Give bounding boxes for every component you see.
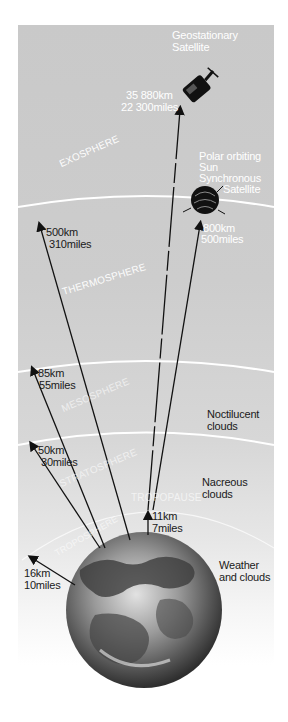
altitude-500km: 500km [46, 226, 78, 238]
geostationary-label-2: Satellite [172, 41, 209, 53]
nacreous-label-1: Nacreous [202, 476, 247, 488]
polar-satellite-icon [183, 186, 225, 214]
arrow-geostationary [148, 110, 180, 510]
weather-label-1: Weather [219, 559, 259, 571]
altitude-500miles: 500miles [201, 233, 243, 245]
altitude-11km: 11km [152, 510, 177, 522]
noctilucent-label-2: clouds [207, 420, 238, 432]
altitude-geostationary-km: 35 880km [126, 89, 173, 101]
layer-tropopause: TROPOPAUSE [131, 492, 202, 503]
altitude-85km: 85km [38, 367, 64, 379]
weather-label-2: and clouds [219, 571, 270, 583]
altitude-310miles: 310miles [49, 238, 91, 250]
polar-label-4: Satellite [223, 183, 260, 195]
altitude-30miles: 30miles [41, 456, 78, 468]
noctilucent-label-1: Noctilucent [207, 408, 259, 420]
altitude-geostationary-miles: 22 300miles [121, 101, 178, 113]
geostationary-label-1: Geostationary [172, 29, 238, 41]
altitude-10miles: 10miles [24, 579, 61, 591]
altitude-50km: 50km [38, 444, 64, 456]
altitude-7miles: 7miles [152, 522, 183, 534]
geostationary-satellite-icon [182, 66, 221, 103]
altitude-16km: 16km [24, 567, 50, 579]
altitude-55miles: 55miles [39, 379, 76, 391]
earth-globe [66, 532, 222, 688]
nacreous-label-2: clouds [202, 488, 233, 500]
